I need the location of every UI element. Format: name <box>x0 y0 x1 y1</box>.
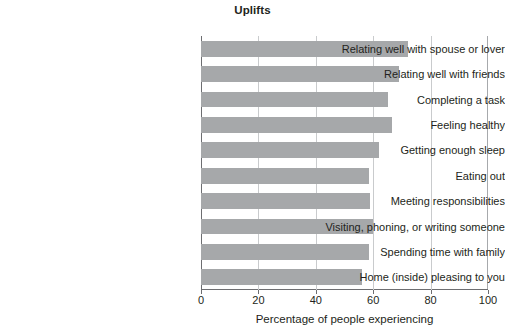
bar-row <box>201 142 488 158</box>
bar-row <box>201 269 488 285</box>
x-tick-label-60: 60 <box>367 294 379 306</box>
bar[interactable] <box>201 92 388 108</box>
bar-row <box>201 219 488 235</box>
bar[interactable] <box>201 193 370 209</box>
x-tick-label-20: 20 <box>252 294 264 306</box>
bars-layer <box>201 36 488 290</box>
bar[interactable] <box>201 117 392 133</box>
x-tick-label-40: 40 <box>310 294 322 306</box>
bar-row <box>201 168 488 184</box>
uplifts-bar-chart: Uplifts Relating well with spouse or lov… <box>0 0 505 336</box>
bar[interactable] <box>201 244 369 260</box>
x-tick-label-0: 0 <box>198 294 204 306</box>
bar[interactable] <box>201 168 369 184</box>
bar[interactable] <box>201 142 379 158</box>
bar-row <box>201 244 488 260</box>
plot-area <box>201 36 488 290</box>
bar-row <box>201 117 488 133</box>
x-axis-title: Percentage of people experiencing <box>201 313 488 325</box>
bar-row <box>201 66 488 82</box>
chart-title: Uplifts <box>0 4 505 16</box>
bar[interactable] <box>201 66 399 82</box>
x-tick-label-80: 80 <box>424 294 436 306</box>
bar[interactable] <box>201 219 373 235</box>
bar[interactable] <box>201 41 408 57</box>
bar-row <box>201 193 488 209</box>
x-tick-label-100: 100 <box>479 294 497 306</box>
bar[interactable] <box>201 269 362 285</box>
bar-row <box>201 92 488 108</box>
bar-row <box>201 41 488 57</box>
